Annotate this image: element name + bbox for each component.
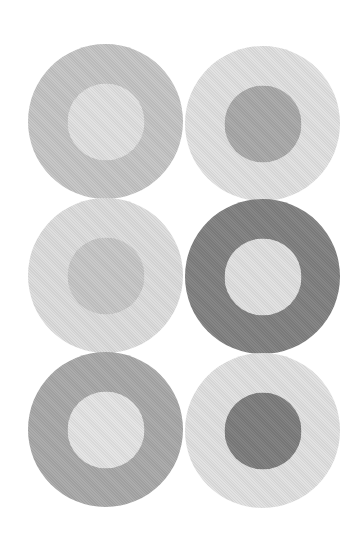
circle-r3-left <box>28 352 183 507</box>
circle-r1-right <box>185 46 340 201</box>
circle-r2-right <box>185 199 340 354</box>
circle-r3-right-center <box>224 392 301 469</box>
circle-r3-left-center <box>67 391 144 468</box>
concentric-circles-grid <box>0 0 363 535</box>
circle-r1-left <box>28 44 183 199</box>
circle-r2-right-center <box>224 238 301 315</box>
circle-r2-left <box>28 198 183 353</box>
circle-r1-left-center <box>67 83 144 160</box>
circle-r2-left-center <box>67 237 144 314</box>
circle-r1-right-center <box>224 85 301 162</box>
circle-r3-right <box>185 353 340 508</box>
